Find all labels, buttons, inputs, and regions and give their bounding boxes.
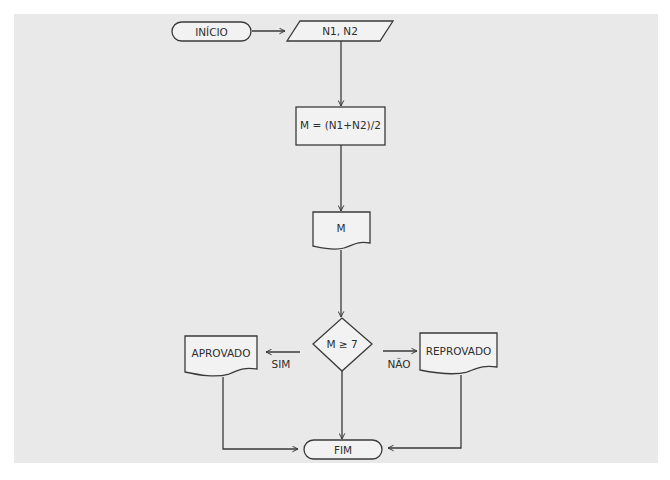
node-end: FIM <box>304 440 382 459</box>
node-input: N1, N2 <box>287 21 393 41</box>
node-failed: REPROVADO <box>420 333 497 374</box>
node-end-label: FIM <box>334 444 352 456</box>
node-decision: M ≥ 7 <box>313 318 372 371</box>
node-approved: APROVADO <box>185 336 257 376</box>
edge-failed-to-end <box>388 375 461 448</box>
node-output-m: M <box>313 212 370 249</box>
node-output-m-label: M <box>336 222 345 234</box>
node-approved-label: APROVADO <box>192 347 251 359</box>
flowchart: SIM NÃO INÍCIO N1, N2 M = (N1+N2)/2 M M … <box>0 0 670 480</box>
node-process: M = (N1+N2)/2 <box>296 107 385 145</box>
edge-approved-to-end <box>223 377 298 449</box>
node-start: INÍCIO <box>172 22 251 41</box>
node-process-label: M = (N1+N2)/2 <box>300 119 381 131</box>
edge-label-no: NÃO <box>387 358 410 370</box>
node-failed-label: REPROVADO <box>426 345 492 357</box>
node-decision-label: M ≥ 7 <box>326 338 357 350</box>
node-input-label: N1, N2 <box>322 25 358 37</box>
edge-label-yes: SIM <box>272 358 291 370</box>
node-start-label: INÍCIO <box>195 26 228 38</box>
